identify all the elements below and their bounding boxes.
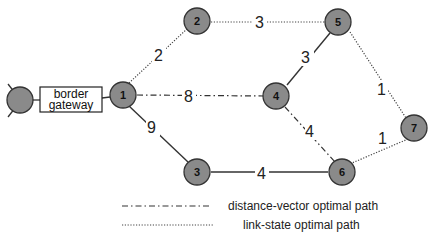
svg-text:7: 7 bbox=[411, 122, 417, 134]
edge-weight-1-4: 8 bbox=[184, 88, 193, 105]
legend: distance-vector optimal path link-state … bbox=[122, 199, 378, 232]
edge-weight-2-5: 3 bbox=[255, 14, 264, 31]
svg-text:6: 6 bbox=[339, 166, 345, 178]
edge-weight-7-6: 1 bbox=[378, 130, 387, 147]
svg-text:1: 1 bbox=[120, 89, 126, 101]
border-gateway-label-line2: gateway bbox=[49, 98, 94, 112]
legend-distance-vector-label: distance-vector optimal path bbox=[228, 199, 378, 213]
router-node-1: 1 bbox=[110, 82, 136, 108]
router-node-3: 3 bbox=[184, 159, 210, 185]
network-diagram: 2 3 8 9 3 1 4 4 1 border gateway 1 2 3 4… bbox=[0, 0, 436, 243]
edge-weight-3-6: 4 bbox=[257, 165, 266, 182]
router-node-4: 4 bbox=[263, 83, 289, 109]
edge-weight-5-4: 3 bbox=[301, 49, 310, 66]
router-node-6: 6 bbox=[329, 159, 355, 185]
edge-weight-4-6: 4 bbox=[305, 123, 314, 140]
svg-text:3: 3 bbox=[194, 166, 200, 178]
router-node-7: 7 bbox=[401, 115, 427, 141]
edge-weight-5-7: 1 bbox=[377, 81, 386, 98]
gateway-node bbox=[7, 87, 33, 113]
edge-5-7 bbox=[350, 32, 406, 118]
router-node-5: 5 bbox=[325, 9, 351, 35]
svg-text:4: 4 bbox=[273, 90, 280, 102]
diagram-svg: 2 3 8 9 3 1 4 4 1 border gateway 1 2 3 4… bbox=[0, 0, 436, 243]
legend-link-state-label: link-state optimal path bbox=[243, 218, 360, 232]
svg-text:5: 5 bbox=[335, 16, 341, 28]
router-node-2: 2 bbox=[184, 8, 210, 34]
box-node1-link bbox=[102, 97, 110, 98]
edge-1-4 bbox=[137, 95, 264, 96]
edge-weight-1-2: 2 bbox=[154, 47, 163, 64]
edge-weight-1-3: 9 bbox=[147, 119, 156, 136]
svg-text:2: 2 bbox=[194, 15, 200, 27]
